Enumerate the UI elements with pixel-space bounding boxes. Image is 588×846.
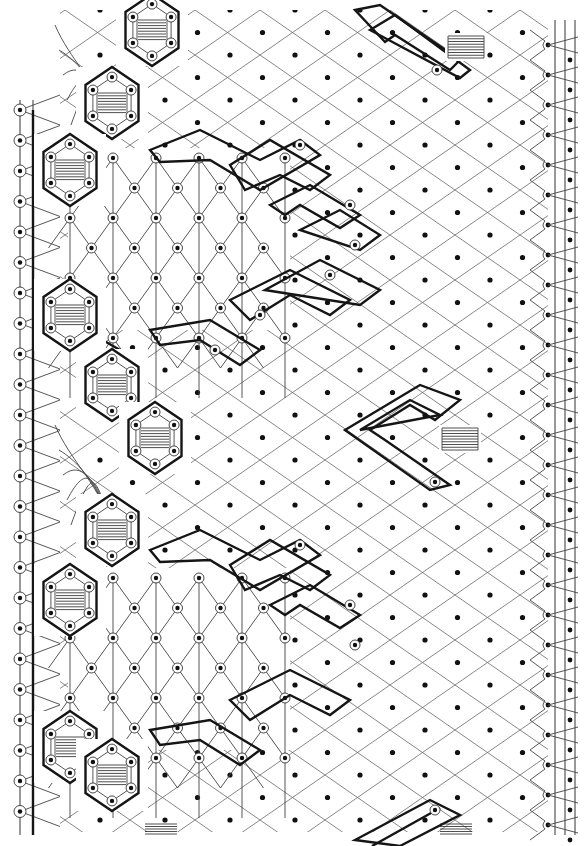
- footside-pinhole: [18, 809, 22, 813]
- pinhole-dot: [390, 525, 395, 530]
- pinhole-dot: [520, 120, 525, 125]
- honeycomb-link: [156, 758, 178, 788]
- pinhole-dot: [218, 186, 222, 190]
- pinhole-dot: [131, 41, 135, 45]
- footside-loop: [530, 780, 545, 810]
- footside-loop: [530, 660, 545, 690]
- footside-pinhole: [568, 418, 573, 423]
- pinhole-dot: [227, 52, 232, 57]
- footside-pinhole: [568, 508, 573, 513]
- pinhole-dot: [283, 216, 287, 220]
- pinhole-dot: [455, 480, 460, 485]
- pinhole-dot: [487, 412, 492, 417]
- pinhole-dot: [455, 120, 460, 125]
- pinhole-dot: [131, 15, 135, 19]
- pinhole-dot: [357, 187, 362, 192]
- footside-pinhole: [568, 298, 573, 303]
- pinhole-dot: [357, 142, 362, 147]
- pinhole-dot: [357, 772, 362, 777]
- footside-pinhole: [18, 596, 22, 600]
- footside-pinhole: [568, 58, 573, 63]
- pinhole-dot: [390, 120, 395, 125]
- pinhole-dot: [91, 88, 95, 92]
- pinhole-dot: [132, 186, 136, 190]
- pinhole-dot: [130, 480, 135, 485]
- pinhole-dot: [520, 300, 525, 305]
- pinhole-dot: [68, 771, 72, 775]
- pinhole-dot: [390, 165, 395, 170]
- footside-pinhole: [18, 291, 22, 295]
- pinhole-dot: [520, 75, 525, 80]
- pinhole-dot: [487, 547, 492, 552]
- pinhole-dot: [91, 370, 95, 374]
- pinhole-dot: [520, 345, 525, 350]
- pinhole-dot: [49, 326, 53, 330]
- bottom-margin-mask: [0, 832, 588, 846]
- hexagon-motif: [76, 67, 148, 139]
- pinhole-dot: [455, 390, 460, 395]
- pinhole-dot: [520, 435, 525, 440]
- pinhole-dot: [520, 210, 525, 215]
- footside-pinhole: [568, 358, 573, 363]
- footside-pinhole: [568, 178, 573, 183]
- pinhole-dot: [357, 322, 362, 327]
- pinhole-dot: [132, 246, 136, 250]
- pinhole-dot: [132, 606, 136, 610]
- pinhole-dot: [357, 502, 362, 507]
- pinhole-dot: [260, 525, 265, 530]
- pinhole-dot: [487, 142, 492, 147]
- footside-loop: [530, 690, 545, 720]
- pinhole-dot: [87, 155, 91, 159]
- pinhole-dot: [455, 615, 460, 620]
- pinhole-dot: [68, 142, 72, 146]
- pinhole-dot: [283, 336, 287, 340]
- footside-pinhole: [18, 535, 22, 539]
- pinhole-dot: [283, 156, 287, 160]
- pinhole-dot: [325, 75, 330, 80]
- pinhole-dot: [153, 410, 157, 414]
- pinhole-dot: [197, 216, 201, 220]
- pricking-canvas: [0, 0, 588, 846]
- pinhole-dot: [49, 181, 53, 185]
- pinhole-dot: [258, 313, 262, 317]
- footside-pinhole: [568, 568, 573, 573]
- pinhole-dot: [110, 799, 114, 803]
- pinhole-dot: [261, 666, 265, 670]
- pinhole-dot: [328, 273, 332, 277]
- footside-loop: [530, 600, 545, 630]
- pinhole-dot: [110, 502, 114, 506]
- pinhole-dot: [240, 276, 244, 280]
- pinhole-dot: [227, 547, 232, 552]
- pinhole-dot: [422, 727, 427, 732]
- pinhole-dot: [390, 480, 395, 485]
- pinhole-dot: [520, 390, 525, 395]
- pinhole-dot: [195, 75, 200, 80]
- pinhole-dot: [87, 732, 91, 736]
- pinhole-dot: [357, 817, 362, 822]
- pinhole-dot: [455, 210, 460, 215]
- pinhole-dot: [227, 412, 232, 417]
- pinhole-dot: [68, 194, 72, 198]
- pinhole-dot: [110, 409, 114, 413]
- pinhole-dot: [97, 52, 102, 57]
- footside-pinhole: [568, 808, 573, 813]
- pinhole-dot: [520, 615, 525, 620]
- footside-pinhole: [568, 628, 573, 633]
- pinhole-dot: [357, 547, 362, 552]
- pinhole-dot: [68, 719, 72, 723]
- pinhole-dot: [227, 367, 232, 372]
- pinhole-dot: [129, 515, 133, 519]
- pinhole-dot: [197, 696, 201, 700]
- pinhole-dot: [111, 636, 115, 640]
- pinhole-dot: [455, 660, 460, 665]
- footside-pinhole: [18, 718, 22, 722]
- pinhole-dot: [357, 682, 362, 687]
- pinhole-dot: [292, 727, 297, 732]
- pinhole-dot: [129, 396, 133, 400]
- pinhole-dot: [390, 300, 395, 305]
- pinhole-dot: [325, 30, 330, 35]
- pinhole-dot: [390, 435, 395, 440]
- pinhole-dot: [49, 155, 53, 159]
- footside-pinhole: [18, 687, 22, 691]
- pinhole-dot: [175, 246, 179, 250]
